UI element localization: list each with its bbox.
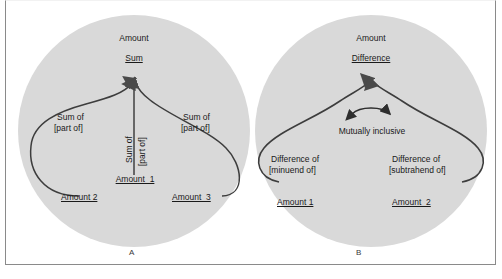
panel-a-center-relation-2: [part of] [137,137,147,166]
panel-a-left-relation-2: [part of] [54,123,83,134]
panel-a-right-node: Amount 3 [172,192,211,203]
panel-a-right-relation-2: [part of] [181,123,210,134]
panel-b-left-relation-2: [minuend of] [269,165,316,176]
panel-b-top-node: Difference [336,53,406,64]
panel-a-left-relation-1: Sum of [57,112,84,123]
panel-b-right-node: Amount 2 [392,197,431,208]
caption-b: B [356,248,361,257]
panel-b-mutual-label: Mutually inclusive [331,126,413,137]
panel-a-right-relation-1: Sum of [183,112,210,123]
panel-b-right-relation-2: [subtrahend of] [389,165,446,176]
panel-a-top-node: Sum [104,53,164,64]
panel-a-center-node: Amount 1 [104,174,166,185]
panel-a-top-category: Amount [94,33,174,44]
panel-b-left-relation-1: Difference of [271,154,319,165]
diagram-graphics [0,0,502,279]
caption-a: A [129,248,134,257]
figure-canvas: Amount Sum Sum of [part of] Sum of [part… [0,0,502,279]
panel-b-left-node: Amount 1 [277,197,313,208]
panel-a-center-relation-1: Sum of [124,136,134,163]
panel-b-right-relation-1: Difference of [392,154,440,165]
panel-b-top-category: Amount [331,33,411,44]
panel-a-left-node: Amount 2 [61,192,97,203]
